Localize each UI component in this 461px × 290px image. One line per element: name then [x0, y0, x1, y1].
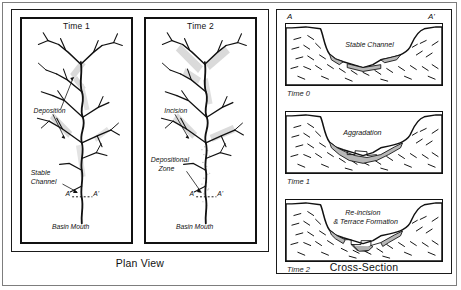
annotation-stable-channel-1b: Channel	[31, 178, 57, 185]
annotation-basin-mouth-1: Basin Mouth	[52, 223, 90, 230]
section-mark-a-left-1: A	[64, 190, 70, 197]
cross-section-end-label-a-prime: A'	[428, 12, 435, 21]
annotation-basin-mouth-2: Basin Mouth	[176, 223, 214, 230]
plan-view-section: Time 1	[11, 9, 269, 274]
section-mark-a-right-1: A'	[92, 190, 99, 197]
cross-section-section: A A'	[276, 9, 452, 274]
cross-section-svg-time-1: Aggradation	[286, 112, 442, 173]
plan-panel-2-drainage-network: Incision Depositional Zone A A' Basin Mo…	[146, 19, 255, 242]
annotation-stable-channel-1: Stable	[31, 169, 51, 176]
cross-section-end-label-a: A	[287, 12, 292, 21]
deposition-shading-1	[50, 60, 110, 177]
plan-panel-1-drainage-network: Deposition Stable Channel A A' Basin Mou…	[22, 19, 131, 242]
section-mark-a-left-2: A	[188, 190, 194, 197]
cross-section-label-aggradation: Aggradation	[342, 129, 381, 137]
cross-section-svg-time-0: Stable Channel	[286, 24, 442, 85]
plan-panel-time-2: Time 2	[144, 17, 257, 244]
cross-section-panel-time-0: Stable Channel	[285, 23, 443, 86]
section-mark-a-right-2: A'	[216, 190, 223, 197]
cross-section-svg-time-2: Re-incision & Terrace Formation	[286, 200, 442, 261]
annotation-depositional-zone-2: Depositional	[151, 156, 190, 164]
plan-view-caption: Plan View	[11, 257, 269, 269]
cross-section-caption: Cross-Section	[276, 261, 452, 273]
plan-panel-time-1: Time 1	[20, 17, 133, 244]
cross-section-time-label-0: Time 0	[287, 89, 310, 98]
annotation-incision-2: Incision	[164, 107, 187, 114]
cross-section-time-label-1: Time 1	[287, 177, 310, 186]
figure-root: Time 1	[0, 0, 461, 290]
cross-section-label-stable-channel: Stable Channel	[345, 41, 394, 48]
cross-section-panel-time-1: Aggradation	[285, 111, 443, 174]
cross-section-label-terrace-formation: & Terrace Formation	[333, 218, 398, 225]
cross-section-label-re-incision: Re-incision	[345, 210, 380, 217]
cross-section-panel-time-2: Re-incision & Terrace Formation	[285, 199, 443, 262]
annotation-depositional-zone-2b: Zone	[158, 165, 175, 172]
